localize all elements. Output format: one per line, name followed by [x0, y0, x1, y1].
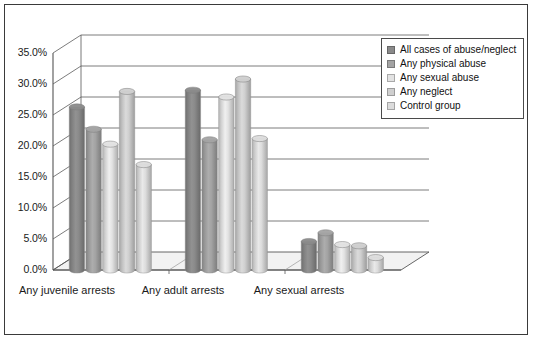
legend-swatch-4 [387, 102, 395, 110]
x-axis-category-label: Any sexual arrests [239, 284, 359, 296]
legend-label-4: Control group [400, 99, 461, 113]
bar [318, 230, 333, 273]
legend-item[interactable]: Any sexual abuse [387, 71, 518, 85]
chart-legend: All cases of abuse/neglect Any physical … [381, 38, 524, 119]
legend-swatch-0 [387, 46, 395, 54]
y-axis-tick-label: 0.0% [5, 263, 47, 275]
y-axis-tick-label: 35.0% [5, 46, 47, 58]
bar [219, 94, 234, 273]
bar [335, 242, 350, 274]
legend-label-2: Any sexual abuse [400, 71, 479, 85]
bar [103, 141, 118, 273]
x-axis-category-label: Any juvenile arrests [7, 284, 127, 296]
bar [202, 137, 217, 273]
bar [301, 238, 316, 273]
legend-swatch-1 [387, 60, 395, 68]
legend-item[interactable]: Any physical abuse [387, 57, 518, 71]
bar [136, 162, 151, 274]
bar [69, 104, 84, 273]
bar [368, 255, 383, 274]
bar [235, 76, 250, 273]
bar [119, 88, 134, 273]
bar [351, 243, 366, 273]
bar [252, 135, 267, 273]
y-axis-tick-label: 10.0% [5, 201, 47, 213]
legend-swatch-3 [387, 88, 395, 96]
x-axis-category-label: Any adult arrests [123, 284, 243, 296]
legend-label-0: All cases of abuse/neglect [400, 43, 516, 57]
bar [185, 87, 200, 273]
legend-label-1: Any physical abuse [400, 57, 486, 71]
y-axis-tick-label: 30.0% [5, 77, 47, 89]
legend-item[interactable]: Control group [387, 99, 518, 113]
y-axis-tick-label: 25.0% [5, 108, 47, 120]
bar [86, 126, 101, 273]
y-axis-tick-label: 20.0% [5, 139, 47, 151]
y-axis-tick-label: 15.0% [5, 170, 47, 182]
legend-item[interactable]: Any neglect [387, 85, 518, 99]
legend-label-3: Any neglect [400, 85, 452, 99]
chart-frame: All cases of abuse/neglect Any physical … [4, 4, 528, 335]
legend-swatch-2 [387, 74, 395, 82]
y-axis-tick-label: 5.0% [5, 232, 47, 244]
legend-item[interactable]: All cases of abuse/neglect [387, 43, 518, 57]
